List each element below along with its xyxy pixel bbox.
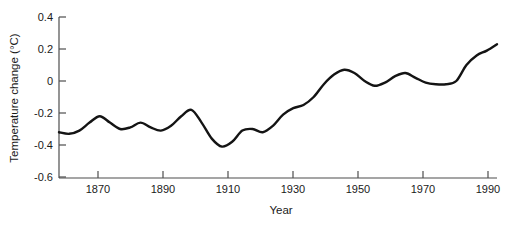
x-tick-label: 1990	[476, 183, 500, 195]
y-tick-label: -0.2	[34, 107, 53, 119]
x-axis-tick-labels: 1870 1890 1910 1930 1950 1970 1990	[86, 183, 500, 195]
y-tick-label: 0.2	[38, 43, 53, 55]
y-axis-title: Temperature change (°C)	[8, 33, 20, 162]
y-tick-label: 0	[47, 75, 53, 87]
x-tick-label: 1930	[281, 183, 305, 195]
y-axis-tick-labels: 0.4 0.2 0 -0.2 -0.4 -0.6	[34, 11, 53, 183]
x-tick-label: 1890	[151, 183, 175, 195]
temperature-change-chart: 0.4 0.2 0 -0.2 -0.4 -0.6 1870 1890 1910 …	[0, 0, 516, 225]
x-tick-label: 1870	[86, 183, 110, 195]
x-axis-title: Year	[269, 204, 292, 216]
y-axis-ticks	[59, 17, 66, 177]
temperature-series-line	[59, 44, 497, 146]
chart-plot-area: 0.4 0.2 0 -0.2 -0.4 -0.6 1870 1890 1910 …	[0, 0, 516, 225]
x-tick-label: 1910	[216, 183, 240, 195]
x-tick-label: 1950	[346, 183, 370, 195]
y-tick-label: 0.4	[38, 11, 53, 23]
x-axis-ticks	[98, 171, 488, 178]
y-tick-label: -0.4	[34, 139, 53, 151]
y-tick-label: -0.6	[34, 171, 53, 183]
x-tick-label: 1970	[411, 183, 435, 195]
